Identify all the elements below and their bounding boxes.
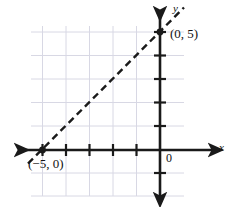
point-marker-y-intercept [157,29,164,36]
point-label-x-intercept: (−5, 0) [28,157,64,170]
point-marker-x-intercept [39,147,46,154]
graph-figure: (0, 5) (−5, 0) 0 x y [0,0,235,207]
x-axis-label: x [219,142,224,153]
y-axis-label: y [173,3,178,14]
point-label-y-intercept: (0, 5) [170,27,198,40]
origin-label: 0 [166,152,172,164]
coordinate-plane-svg [0,0,235,207]
